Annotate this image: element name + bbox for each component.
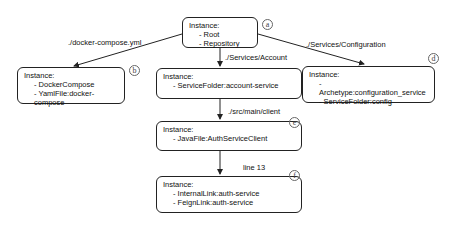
node-c-title: Instance: <box>163 72 295 81</box>
edge-label-e-f: line 13 <box>243 163 265 172</box>
node-a-item: Repository <box>199 39 251 48</box>
edge-label-c-e: ./src/main/client <box>228 107 280 116</box>
node-b-item: YamlFile:docker-compose <box>34 89 118 107</box>
node-d-title: Instance: <box>309 70 428 79</box>
tag-b: b <box>129 65 140 76</box>
node-a-item: Root <box>199 30 251 39</box>
node-d-item: ServiceFolder:config <box>319 97 428 106</box>
tag-f: f <box>289 170 300 181</box>
edge-label-a-b: ./docker-compose.yml <box>68 38 141 47</box>
node-d: Instance: Archetype:configuration_servic… <box>302 66 435 103</box>
node-b-title: Instance: <box>24 71 118 80</box>
node-f-title: Instance: <box>163 180 295 189</box>
node-e: Instance: JavaFile:AuthServiceClient <box>156 121 302 151</box>
edge-label-a-c: ./Services/Account <box>225 53 287 62</box>
node-e-item: JavaFile:AuthServiceClient <box>173 134 295 143</box>
node-a: Instance: Root Repository <box>182 17 258 48</box>
tag-e: e <box>289 117 300 128</box>
node-f-item: InternalLink:auth-service <box>173 189 295 198</box>
tag-a: a <box>262 19 273 30</box>
node-f: Instance: InternalLink:auth-service Feig… <box>156 176 302 213</box>
node-b: Instance: DockerCompose YamlFile:docker-… <box>17 67 125 104</box>
node-c: Instance: ServiceFolder:account-service <box>156 68 302 99</box>
node-b-item: DockerCompose <box>34 80 118 89</box>
edge-label-a-d: ./Services/Configuration <box>306 40 386 49</box>
node-e-title: Instance: <box>163 125 295 134</box>
node-f-item: FeignLink:auth-service <box>173 198 295 207</box>
tag-d: d <box>428 53 439 64</box>
node-a-title: Instance: <box>189 21 251 30</box>
node-d-item: Archetype:configuration_service <box>319 79 428 97</box>
node-c-item: ServiceFolder:account-service <box>173 81 295 90</box>
